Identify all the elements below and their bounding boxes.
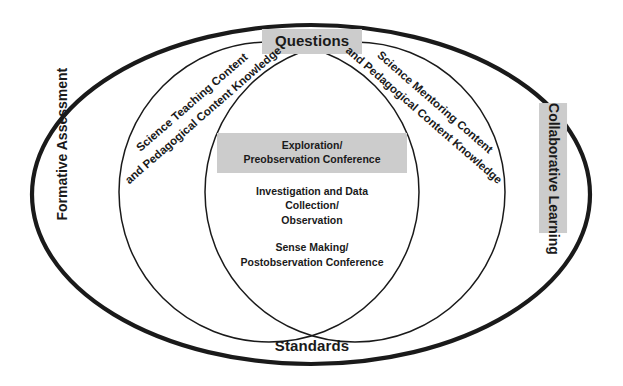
- label-standards: Standards: [258, 334, 366, 359]
- intersection-content: Exploration/ Preobservation Conference I…: [233, 133, 391, 269]
- intersection-item-exploration-line1: Exploration/: [219, 138, 405, 152]
- venn-diagram: Questions Standards Formative Assessment…: [0, 0, 623, 386]
- intersection-item-investigation-line1: Investigation and Data Collection/: [233, 184, 391, 213]
- label-collaborative-learning: Collaborative Learning: [539, 103, 567, 233]
- intersection-item-investigation-line2: Observation: [233, 213, 391, 227]
- intersection-item-sense-making-line2: Postobservation Conference: [233, 255, 391, 269]
- label-formative-assessment: Formative Assessment: [52, 93, 73, 221]
- intersection-item-sense-making-line1: Sense Making/: [233, 240, 391, 254]
- intersection-item-exploration-line2: Preobservation Conference: [219, 152, 405, 166]
- intersection-item-investigation: Investigation and Data Collection/ Obser…: [233, 184, 391, 227]
- intersection-item-sense-making: Sense Making/ Postobservation Conference: [233, 240, 391, 269]
- intersection-item-exploration: Exploration/ Preobservation Conference: [217, 133, 407, 173]
